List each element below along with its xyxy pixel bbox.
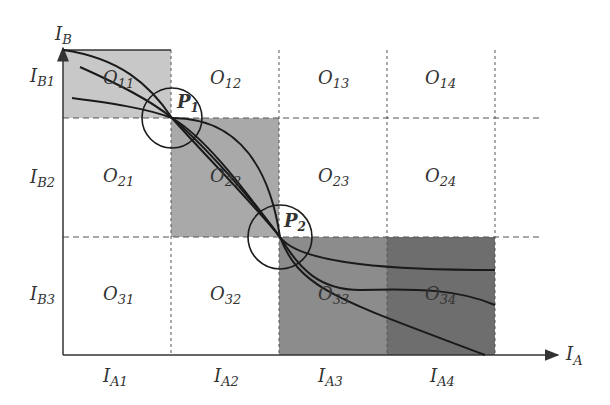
cell-label-o24: O24 [425, 165, 456, 189]
y-axis-label: IB [54, 23, 72, 47]
cell-label-o31: O31 [103, 283, 134, 307]
row-label-b2: IB2 [29, 166, 55, 190]
cell-label-o14: O14 [425, 67, 456, 91]
col-label-a1: IA1 [102, 365, 128, 389]
cell-label-o32: O32 [210, 283, 241, 307]
cell-label-o23: O23 [318, 165, 349, 189]
point-label-p1: P1 [176, 91, 199, 115]
operating-region-diagram: P1 P2 IB IA IB1 IB2 IB3 IA1 IA2 IA3 IA4 … [0, 0, 610, 405]
col-label-a4: IA4 [429, 365, 455, 389]
x-axis-label: IA [565, 343, 583, 368]
row-label-b3: IB3 [29, 283, 55, 307]
col-label-a3: IA3 [317, 365, 343, 389]
cell-label-o13: O13 [318, 67, 349, 91]
row-label-b1: IB1 [29, 65, 55, 89]
cell-label-o12: O12 [210, 67, 241, 91]
col-label-a2: IA2 [213, 365, 239, 389]
cell-label-o21: O21 [103, 165, 134, 189]
